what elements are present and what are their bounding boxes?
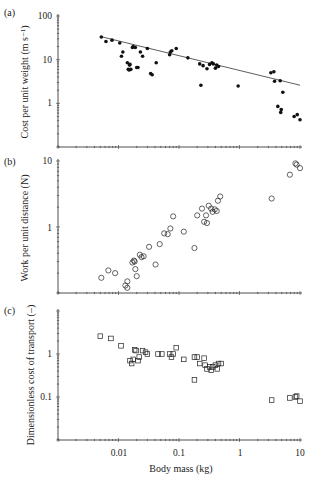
data-point-filled-circle — [272, 70, 276, 74]
data-point-filled-circle — [139, 50, 143, 54]
data-point-open-circle — [125, 279, 130, 284]
data-point-open-square — [109, 336, 114, 341]
data-point-filled-circle — [205, 67, 209, 71]
panel-b-ylabel: Work per unit distance (N) — [19, 175, 31, 282]
data-point-filled-circle — [174, 47, 178, 51]
data-point-open-circle — [165, 232, 170, 237]
data-point-open-circle — [168, 226, 173, 231]
data-point-open-square — [219, 361, 224, 366]
data-point-open-circle — [106, 268, 111, 273]
data-point-open-square — [202, 356, 207, 361]
panel-a-label: (a) — [4, 7, 15, 19]
data-points-group — [98, 35, 303, 403]
data-point-open-square — [197, 361, 202, 366]
data-point-filled-circle — [199, 83, 203, 87]
panel-c-ytick: 0.1 — [40, 392, 52, 402]
data-point-open-circle — [269, 196, 274, 201]
data-point-open-square — [171, 352, 176, 357]
data-point-open-circle — [133, 267, 138, 272]
data-point-filled-circle — [134, 46, 138, 50]
panel-a-ytick: 1 — [47, 98, 52, 108]
data-point-filled-circle — [110, 38, 114, 42]
xtick-label: 1 — [238, 448, 243, 458]
data-point-filled-circle — [201, 64, 205, 68]
data-point-open-circle — [297, 166, 302, 171]
xtick-label: 0.01 — [111, 448, 128, 458]
data-point-open-square — [269, 398, 274, 403]
data-point-filled-circle — [170, 49, 174, 53]
panel-a-ylabel: Cost per unit weight (m s⁻¹) — [19, 26, 31, 139]
data-point-open-circle — [199, 206, 204, 211]
data-point-filled-circle — [100, 35, 104, 39]
data-point-filled-circle — [146, 47, 150, 51]
data-point-filled-circle — [212, 62, 216, 66]
data-point-open-square — [167, 352, 172, 357]
data-point-filled-circle — [279, 111, 283, 115]
data-point-filled-circle — [154, 61, 158, 65]
data-point-open-square — [298, 399, 303, 404]
data-point-open-square — [174, 345, 179, 350]
data-point-filled-circle — [295, 113, 299, 117]
data-point-open-circle — [294, 162, 299, 167]
data-point-filled-circle — [273, 79, 277, 83]
regression-line — [100, 36, 300, 85]
data-point-open-square — [195, 355, 200, 360]
data-point-filled-circle — [198, 62, 202, 66]
data-point-open-circle — [287, 172, 292, 177]
panel-b-ytick: 10 — [43, 156, 53, 166]
data-point-open-square — [288, 396, 293, 401]
data-point-open-circle — [171, 214, 176, 219]
data-point-filled-circle — [120, 54, 124, 58]
data-point-filled-circle — [281, 90, 285, 94]
data-point-open-square — [192, 378, 197, 383]
data-point-open-square — [140, 348, 145, 353]
panel-a-ytick: 100 — [38, 11, 53, 21]
data-point-filled-circle — [298, 118, 302, 122]
data-point-filled-circle — [217, 65, 221, 69]
data-point-filled-circle — [104, 40, 108, 44]
data-point-open-square — [145, 352, 150, 357]
data-point-open-circle — [195, 213, 200, 218]
data-point-open-circle — [162, 231, 167, 236]
panel-c-label: (c) — [4, 305, 15, 317]
data-point-filled-circle — [118, 41, 122, 45]
data-point-open-square — [210, 365, 215, 370]
data-point-open-square — [98, 334, 103, 339]
panel-c-ylabel: Dimensionless cost of transport (–) — [25, 305, 37, 446]
data-point-filled-circle — [150, 73, 154, 77]
xtick-label: 10 — [295, 448, 305, 458]
data-point-open-square — [169, 355, 174, 360]
data-point-filled-circle — [278, 79, 282, 83]
data-point-open-square — [181, 357, 186, 362]
data-point-open-circle — [113, 271, 118, 276]
data-point-filled-circle — [128, 63, 132, 67]
data-point-open-circle — [146, 244, 151, 249]
data-point-filled-circle — [136, 66, 140, 70]
xtick-label: 0.1 — [173, 448, 185, 458]
data-point-open-circle — [134, 274, 139, 279]
data-point-filled-circle — [121, 50, 125, 54]
data-point-open-square — [216, 361, 221, 366]
panel-a-ytick: 10 — [43, 55, 53, 65]
data-point-open-circle — [203, 213, 208, 218]
data-point-open-square — [143, 350, 148, 355]
panel-b-label: (b) — [4, 156, 16, 168]
axes-group — [56, 14, 302, 442]
figure: (a) (b) (c) Cost per unit weight (m s⁻¹)… — [0, 0, 316, 484]
data-point-filled-circle — [236, 84, 240, 88]
data-point-open-square — [119, 344, 124, 349]
data-point-open-square — [192, 355, 197, 360]
data-point-open-circle — [192, 245, 197, 250]
data-point-filled-circle — [141, 54, 145, 58]
data-point-open-circle — [157, 242, 162, 247]
data-point-filled-circle — [129, 68, 133, 72]
data-point-open-circle — [99, 275, 104, 280]
data-point-open-circle — [293, 161, 298, 166]
x-axis-title: Body mass (kg) — [149, 463, 212, 475]
data-point-filled-circle — [292, 115, 296, 119]
panel-c-ytick: 1 — [47, 349, 52, 359]
data-point-open-circle — [181, 229, 186, 234]
data-point-filled-circle — [186, 56, 190, 60]
data-point-filled-circle — [276, 105, 280, 109]
data-point-open-circle — [218, 194, 223, 199]
